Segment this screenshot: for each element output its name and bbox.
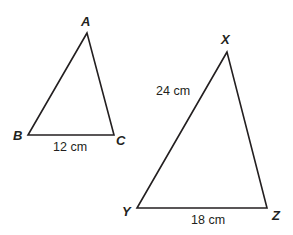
vertex-label-x: X: [220, 32, 231, 47]
similar-triangles-diagram: A B C 12 cm X Y Z 24 cm 18 cm: [0, 0, 293, 235]
triangle-abc: A B C 12 cm: [13, 14, 126, 154]
triangle-xyz-shape: [137, 52, 267, 208]
side-label-yz: 18 cm: [191, 213, 225, 227]
vertex-label-b: B: [13, 128, 22, 143]
vertex-label-c: C: [116, 133, 126, 148]
vertex-label-z: Z: [271, 208, 281, 223]
side-label-bc: 12 cm: [53, 140, 87, 154]
triangle-xyz: X Y Z 24 cm 18 cm: [122, 32, 281, 227]
side-label-xy: 24 cm: [156, 84, 190, 98]
vertex-label-a: A: [80, 14, 90, 29]
triangle-abc-shape: [28, 33, 114, 135]
vertex-label-y: Y: [122, 204, 132, 219]
